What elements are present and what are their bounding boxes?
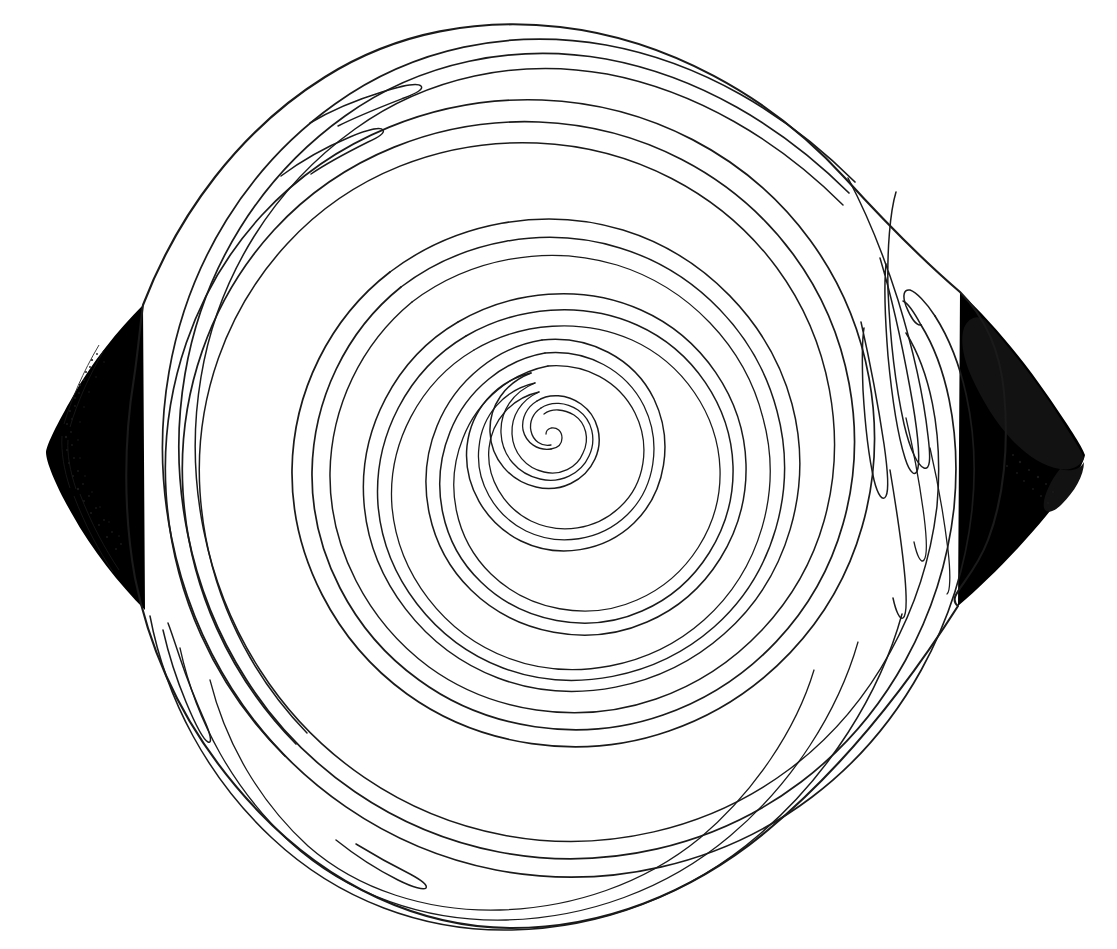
spiral-drawing: [0, 0, 1117, 949]
figure-root: [0, 0, 1117, 949]
drawing-background: [0, 0, 1117, 949]
